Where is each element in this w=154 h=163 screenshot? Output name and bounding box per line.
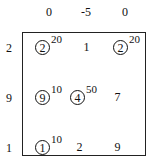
column-header: 0	[34, 5, 64, 20]
matrix-cell: 9	[110, 140, 150, 160]
row-header: 2	[4, 41, 14, 56]
row-header: 9	[4, 91, 14, 106]
matrix-cell: 4 50	[70, 90, 110, 110]
matrix-cell: 9 10	[35, 90, 75, 110]
matrix-cell: 2 20	[113, 40, 153, 60]
column-header: 0	[110, 5, 140, 20]
cell-value: 2	[72, 140, 87, 155]
cell-value: 9	[110, 140, 125, 155]
row-header: 1	[4, 141, 14, 156]
matrix-cell: 2	[72, 140, 112, 160]
matrix-cell: 7	[110, 90, 150, 110]
cell-value: 7	[110, 90, 125, 105]
cell-superscript: 20	[129, 33, 140, 45]
cell-value: 1	[35, 140, 50, 155]
column-header: -5	[71, 5, 101, 20]
cell-superscript: 10	[51, 133, 62, 145]
cell-value: 4	[70, 90, 85, 105]
cell-value: 2	[35, 40, 50, 55]
cell-superscript: 50	[86, 83, 97, 95]
cell-value: 2	[113, 40, 128, 55]
cell-superscript: 20	[51, 33, 62, 45]
cell-value: 9	[35, 90, 50, 105]
cell-superscript: 10	[51, 83, 62, 95]
matrix-cell: 2 20	[35, 40, 75, 60]
matrix-cell: 1 10	[35, 140, 75, 160]
cell-value: 1	[79, 40, 94, 55]
